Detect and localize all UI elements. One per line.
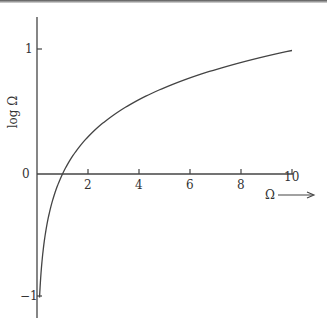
y-tick-label-neg1: −1 <box>20 289 38 303</box>
x-tick-label-2: 2 <box>84 178 92 192</box>
x-tick-label-6: 6 <box>186 178 194 192</box>
x-axis-label: Ω <box>265 188 275 202</box>
y-tick-label-0: 0 <box>22 167 30 181</box>
log-omega-chart: 2 4 6 8 10 1 0 −1 log Ω Ω <box>0 0 327 334</box>
x-tick-label-10: 10 <box>284 170 299 184</box>
x-tick-label-8: 8 <box>237 178 245 192</box>
y-tick-label-1: 1 <box>25 42 33 56</box>
y-axis-label: log Ω <box>6 96 20 129</box>
x-tick-label-4: 4 <box>135 178 143 192</box>
